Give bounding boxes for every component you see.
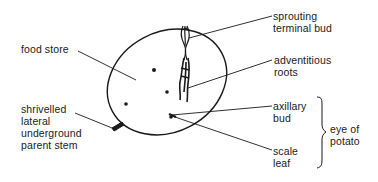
shrivelled-stem	[112, 122, 124, 131]
label-shrivelled-stem: shrivelled lateral underground parent st…	[21, 103, 82, 151]
leader-adventitious-roots	[188, 60, 272, 88]
leader-sprouting-bud	[189, 16, 272, 38]
leader-food-store	[78, 51, 136, 80]
label-food-store: food store	[21, 43, 69, 55]
eye-dot	[124, 102, 128, 106]
sprouting-bud	[181, 26, 190, 60]
label-scale-leaf: scale leaf	[273, 145, 298, 169]
label-adventitious-roots: adventitious roots	[274, 54, 331, 78]
label-axillary-bud: axillary bud	[273, 100, 306, 124]
leader-axillary-bud	[172, 106, 272, 115]
adventitious-roots	[180, 58, 189, 102]
potato-diagram: food store sprouting terminal bud advent…	[0, 0, 378, 182]
leader-scale-leaf	[172, 116, 272, 150]
eye-dot	[165, 90, 169, 94]
label-eye-of-potato: eye of potato	[330, 123, 360, 147]
brace	[317, 97, 326, 168]
eye-dot	[152, 68, 156, 72]
label-sprouting-terminal-bud: sprouting terminal bud	[273, 10, 332, 34]
